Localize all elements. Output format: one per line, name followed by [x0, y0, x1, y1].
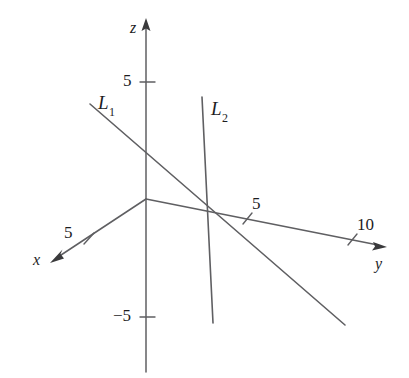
line-L1-group	[90, 104, 345, 325]
line-L1-label: L1	[98, 93, 115, 116]
z-axis-tick-label-5: 5	[123, 72, 132, 89]
y-axis-line	[146, 199, 378, 245]
figure-canvas: z x y 5 −5 5 5 10 L1 L2	[0, 0, 409, 378]
y-axis-arrowhead	[372, 242, 387, 251]
axes-diagram-svg	[0, 0, 409, 378]
y-axis-label: y	[375, 256, 382, 272]
z-axis-tick-label-minus5: −5	[113, 307, 131, 324]
line-L2-label-main: L	[211, 98, 222, 119]
line-L1-label-subscript: 1	[109, 105, 115, 119]
y-axis-tick-label-5: 5	[252, 195, 261, 212]
line-L1	[90, 104, 345, 325]
z-axis-group	[140, 18, 155, 372]
x-axis-tick-label-5: 5	[64, 224, 73, 241]
x-axis-arrowhead	[50, 250, 64, 264]
line-L1-label-main: L	[98, 92, 109, 113]
line-L2-label: L2	[211, 99, 228, 122]
z-axis-label: z	[130, 20, 136, 36]
y-axis-tick-label-10: 10	[357, 216, 374, 233]
y-axis-group	[146, 199, 387, 251]
line-L2-label-subscript: 2	[222, 111, 228, 125]
x-axis-label: x	[33, 252, 40, 268]
